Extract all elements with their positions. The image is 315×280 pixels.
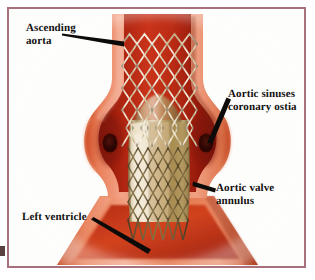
label-left-ventricle: Left ventricle [22,211,87,224]
tavi-figure: Ascending aorta Aortic sinuses coronary … [0,0,315,280]
label-aortic-sinuses-coronary-ostia: Aortic sinuses coronary ostia [228,88,297,113]
label-ascending-aorta: Ascending aorta [26,22,76,47]
label-aortic-valve-annulus: Aortic valve annulus [216,182,274,207]
